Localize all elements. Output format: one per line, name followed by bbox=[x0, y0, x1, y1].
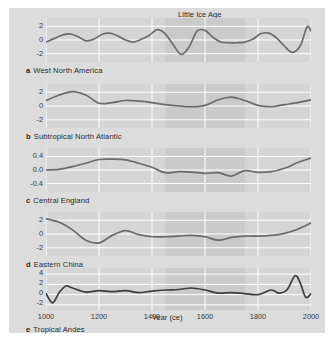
panel-e-label: eTropical Andes bbox=[26, 325, 85, 334]
panel-b-ytick-2: -2 bbox=[28, 116, 43, 123]
panel-b-tag: b bbox=[26, 132, 31, 141]
climate-multipanel-figure: Little Ice Age 2 0 -2 aWest North Americ… bbox=[0, 0, 334, 339]
panel-b-name: Subtropical North Atlantic bbox=[34, 132, 122, 141]
panel-b-plot bbox=[46, 84, 311, 128]
panel-a-name: West North America bbox=[33, 66, 102, 75]
panel-c-name: Central England bbox=[33, 196, 89, 205]
panel-c-ytick-2: -0.4 bbox=[20, 180, 43, 187]
x-tick-1000: 1000 bbox=[30, 312, 62, 321]
x-tick-1800: 1800 bbox=[242, 312, 274, 321]
panel-b-label: bSubtropical North Atlantic bbox=[26, 132, 122, 141]
panel-a-ytick-0: 2 bbox=[30, 22, 43, 29]
panel-c-tag: c bbox=[26, 196, 30, 205]
panel-b-ytick-1: 0 bbox=[30, 102, 43, 109]
panel-b-svg bbox=[46, 84, 311, 128]
panel-d-svg bbox=[46, 212, 311, 256]
panel-e-svg bbox=[46, 268, 311, 310]
x-tick-2000: 2000 bbox=[295, 312, 327, 321]
panel-a-plot bbox=[46, 18, 311, 62]
panel-a-ytick-1: 0 bbox=[30, 36, 43, 43]
panel-c-ytick-0: 0.4 bbox=[22, 152, 43, 159]
panel-e-ytick-2: 0 bbox=[30, 289, 43, 296]
panel-e-ytick-0: 4 bbox=[30, 269, 43, 276]
panel-e-ytick-1: 2 bbox=[30, 279, 43, 286]
panel-d-plot bbox=[46, 212, 311, 256]
panel-d-ytick-0: 2 bbox=[30, 216, 43, 223]
x-tick-1600: 1600 bbox=[189, 312, 221, 321]
panel-c-svg bbox=[46, 148, 311, 192]
panel-b-ytick-0: 2 bbox=[30, 88, 43, 95]
panel-a-svg bbox=[46, 18, 311, 62]
panel-c-label: cCentral England bbox=[26, 196, 89, 205]
panel-a-tag: a bbox=[26, 66, 30, 75]
panel-d-tag: d bbox=[26, 260, 31, 269]
panel-e-tag: e bbox=[26, 325, 30, 334]
panel-e-ytick-3: -2 bbox=[28, 299, 43, 306]
panel-d-ytick-2: -2 bbox=[28, 244, 43, 251]
panel-e-name: Tropical Andes bbox=[33, 325, 84, 334]
panel-d-ytick-1: 0 bbox=[30, 230, 43, 237]
panel-c-ytick-1: 0.0 bbox=[22, 166, 43, 173]
x-tick-1200: 1200 bbox=[83, 312, 115, 321]
panel-a-label: aWest North America bbox=[26, 66, 103, 75]
panel-a-ytick-2: -2 bbox=[28, 50, 43, 57]
panel-e-plot bbox=[46, 268, 311, 310]
x-axis-label: Year (ce) bbox=[152, 313, 183, 322]
panel-c-plot bbox=[46, 148, 311, 192]
